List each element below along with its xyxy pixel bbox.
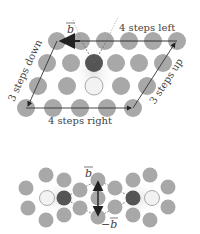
light-atom [85,77,103,95]
bottom-lattice-diagram: b −b [19,167,176,231]
top-lattice-diagram: b 4 steps left 4 steps right 3 steps dow… [6,17,186,126]
label-4-steps-right: 4 steps right [48,115,112,126]
diagram-canvas: b 4 steps left 4 steps right 3 steps dow… [0,0,200,234]
label-4-steps-left: 4 steps left [119,22,175,33]
neg-b-vector-label: −b [101,218,117,231]
dark-atom-right [126,191,141,206]
light-atom-right [145,191,160,206]
light-atom-left [40,191,55,206]
b-vector-label: b [67,23,74,36]
dark-atom-left [57,191,72,206]
b-vector-label: b [85,167,92,180]
